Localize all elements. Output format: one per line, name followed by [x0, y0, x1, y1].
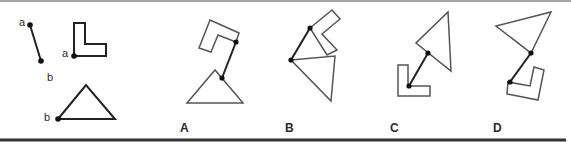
option-b[interactable]: B: [285, 10, 340, 135]
option-c[interactable]: C: [390, 12, 451, 135]
option-b-label: B: [285, 121, 294, 135]
segment-label-b: b: [47, 71, 53, 83]
given-triangle: b: [44, 85, 115, 123]
l-shape-label-a: a: [62, 47, 69, 59]
option-a[interactable]: A: [180, 20, 243, 135]
triangle-label-b: b: [44, 111, 50, 123]
option-a-label: A: [180, 121, 189, 135]
option-d[interactable]: D: [493, 12, 551, 135]
given-l-shape: a: [62, 23, 106, 59]
given-pieces: a b a b: [19, 16, 115, 123]
puzzle-figure: a b a b A B: [0, 0, 571, 142]
given-segment: a b: [19, 16, 53, 83]
option-d-label: D: [493, 121, 502, 135]
segment-label-a: a: [19, 16, 26, 28]
option-c-label: C: [390, 121, 399, 135]
